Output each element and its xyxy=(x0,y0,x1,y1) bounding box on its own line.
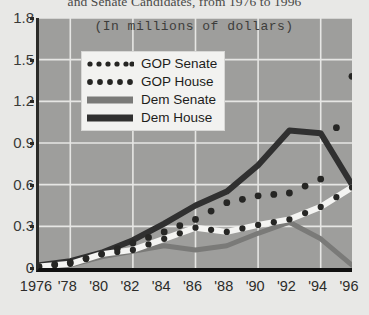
legend-swatch-dem-senate xyxy=(86,93,134,107)
y-axis: 00.30.60.91.21.51.8 xyxy=(0,0,34,315)
series-marker-gop-house xyxy=(302,183,309,190)
legend-swatch-gop-senate xyxy=(86,57,134,71)
series-marker-gop-house xyxy=(98,251,105,258)
series-marker-gop-senate xyxy=(161,236,167,242)
series-marker-gop-senate xyxy=(255,222,261,228)
legend-swatch-dem-house xyxy=(86,111,134,125)
series-marker-gop-house xyxy=(239,196,246,203)
legend-item: Dem House xyxy=(86,109,217,127)
series-marker-gop-house xyxy=(161,229,168,236)
series-marker-gop-house xyxy=(130,240,137,247)
legend-swatch-gop-house xyxy=(86,75,134,89)
series-marker-gop-house xyxy=(333,124,340,131)
series-marker-gop-house xyxy=(145,234,152,241)
y-axis-tick xyxy=(30,267,34,270)
series-marker-gop-house xyxy=(83,255,90,262)
chart-legend: GOP SenateGOP HouseDem SenateDem House xyxy=(82,52,224,130)
series-marker-gop-house xyxy=(349,73,352,80)
legend-label: Dem House xyxy=(141,111,212,125)
legend-item: GOP House xyxy=(86,73,217,91)
series-marker-gop-senate xyxy=(318,204,324,210)
series-marker-gop-house xyxy=(67,259,74,266)
series-marker-gop-senate xyxy=(239,225,245,231)
series-marker-gop-house xyxy=(114,245,121,252)
legend-label: GOP Senate xyxy=(141,57,217,71)
series-marker-gop-house xyxy=(176,222,183,229)
series-marker-gop-senate xyxy=(130,247,136,253)
y-axis-tick xyxy=(30,100,34,103)
legend-item: Dem Senate xyxy=(86,91,217,109)
x-axis-tick-label: '96 xyxy=(323,278,369,294)
series-marker-gop-house xyxy=(192,216,199,223)
series-marker-gop-senate xyxy=(286,216,292,222)
legend-item: GOP Senate xyxy=(86,55,217,73)
series-marker-gop-house xyxy=(223,199,230,206)
series-marker-gop-house xyxy=(208,208,215,215)
series-marker-gop-house xyxy=(317,176,324,183)
series-marker-gop-senate xyxy=(192,225,198,231)
series-marker-gop-senate xyxy=(333,194,339,200)
series-marker-gop-senate xyxy=(302,210,308,216)
series-marker-gop-house xyxy=(255,192,262,199)
series-marker-gop-house xyxy=(270,191,277,198)
series-marker-gop-senate xyxy=(224,229,230,235)
legend-label: GOP House xyxy=(141,75,214,89)
series-marker-gop-senate xyxy=(177,230,183,236)
legend-label: Dem Senate xyxy=(141,93,216,107)
y-axis-tick xyxy=(30,59,34,62)
series-marker-gop-senate xyxy=(208,227,214,233)
y-axis-tick xyxy=(30,17,34,20)
series-marker-gop-house xyxy=(286,190,293,197)
chart-figure: and Senate Candidates, from 1976 to 1996… xyxy=(0,0,369,315)
chart-subtitle: (In millions of dollars) xyxy=(36,19,352,34)
y-axis-tick xyxy=(30,142,34,145)
x-axis: 1976'78'80'82'84'86'88'90'92'94'96 xyxy=(0,276,369,300)
series-marker-gop-house xyxy=(51,261,58,268)
y-axis-tick xyxy=(30,184,34,187)
series-marker-gop-senate xyxy=(145,241,151,247)
y-axis-tick xyxy=(30,225,34,228)
series-marker-gop-senate xyxy=(271,219,277,225)
chart-title-cutoff: and Senate Candidates, from 1976 to 1996 xyxy=(0,0,369,10)
